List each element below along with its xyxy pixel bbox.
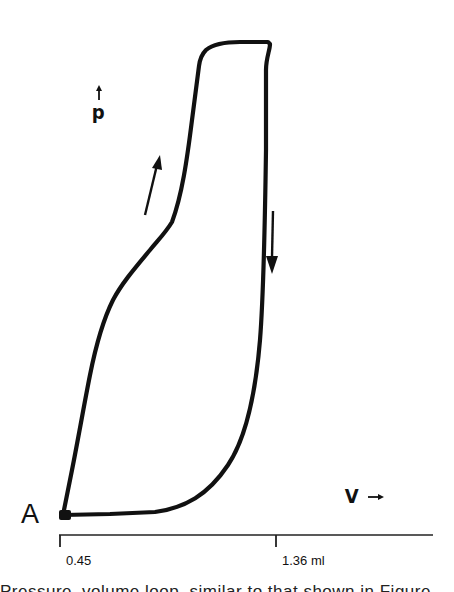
x-tick-label-right: 1.36 ml — [282, 553, 325, 568]
figure-caption-clipped: Pressure–volume loop, similar to that sh… — [0, 582, 454, 592]
arrow-down-icon — [266, 211, 278, 274]
arrow-up-icon — [145, 155, 162, 215]
x-axis-arrow-icon — [368, 494, 384, 500]
y-axis-arrow-icon — [96, 85, 102, 100]
x-tick-label-left: 0.45 — [66, 553, 91, 568]
point-a-label: A — [21, 499, 39, 530]
point-a-marker — [59, 510, 71, 520]
x-axis-label: V — [345, 484, 359, 508]
pv-loop-chart — [0, 0, 454, 592]
y-axis-label: p — [92, 100, 105, 124]
